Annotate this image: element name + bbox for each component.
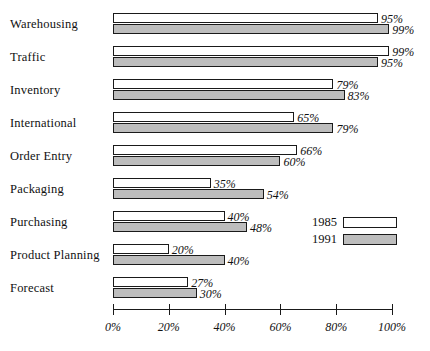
bar-1985-warehousing [113, 13, 378, 23]
category-label-purchasing: Purchasing [10, 216, 68, 229]
bar-1991-inventory [113, 90, 345, 100]
axis-tick-label-100pct: 100% [378, 321, 406, 333]
bar-value-1991-forecast: 30% [200, 288, 222, 300]
bar-1985-packaging [113, 178, 211, 188]
bar-1991-order-entry [113, 156, 280, 166]
legend-item-1991: 1991 [312, 233, 397, 246]
axis-tick-60pct [280, 304, 281, 315]
bar-1985-order-entry [113, 145, 297, 155]
bar-1985-purchasing [113, 211, 225, 221]
category-label-product-planning: Product Planning [10, 249, 100, 262]
axis-tick-label-0pct: 0% [105, 321, 121, 333]
axis-line [113, 309, 392, 310]
bar-1991-traffic [113, 57, 378, 67]
bar-value-1991-warehousing: 99% [392, 24, 414, 36]
bar-value-1991-purchasing: 48% [250, 222, 272, 234]
category-label-inventory: Inventory [10, 84, 60, 97]
legend-item-1985: 1985 [312, 216, 397, 229]
axis-tick-label-80pct: 80% [325, 321, 347, 333]
bar-1991-product-planning [113, 255, 225, 265]
category-label-order-entry: Order Entry [10, 150, 72, 163]
category-label-traffic: Traffic [10, 51, 45, 64]
axis-tick-0pct [113, 304, 114, 315]
axis-tick-label-60pct: 60% [269, 321, 291, 333]
bar-value-1991-product-planning: 40% [228, 255, 250, 267]
bar-chart: WarehousingTrafficInventoryInternational… [0, 0, 430, 351]
bar-1985-forecast [113, 277, 188, 287]
axis-tick-100pct [392, 304, 393, 315]
axis-tick-label-40pct: 40% [214, 321, 236, 333]
legend-swatch-1991 [343, 234, 397, 245]
bar-1985-international [113, 112, 294, 122]
bar-value-1991-traffic: 95% [381, 57, 403, 69]
bar-value-1991-inventory: 83% [348, 90, 370, 102]
bar-1985-inventory [113, 79, 333, 89]
category-label-forecast: Forecast [10, 282, 54, 295]
axis-tick-20pct [169, 304, 170, 315]
axis-tick-40pct [225, 304, 226, 315]
legend-label-1985: 1985 [312, 216, 337, 229]
legend-label-1991: 1991 [312, 233, 337, 246]
axis-tick-80pct [336, 304, 337, 315]
axis-tick-label-20pct: 20% [158, 321, 180, 333]
bar-1991-forecast [113, 288, 197, 298]
bar-1991-packaging [113, 189, 264, 199]
bar-1991-warehousing [113, 24, 389, 34]
category-label-international: International [10, 117, 76, 130]
bar-1985-product-planning [113, 244, 169, 254]
bar-value-1991-order-entry: 60% [283, 156, 305, 168]
bar-value-1991-packaging: 54% [267, 189, 289, 201]
category-label-warehousing: Warehousing [10, 18, 78, 31]
bar-1991-international [113, 123, 333, 133]
bar-1991-purchasing [113, 222, 247, 232]
category-label-packaging: Packaging [10, 183, 64, 196]
legend-swatch-1985 [343, 217, 397, 228]
bar-1985-traffic [113, 46, 389, 56]
bar-value-1991-international: 79% [336, 123, 358, 135]
